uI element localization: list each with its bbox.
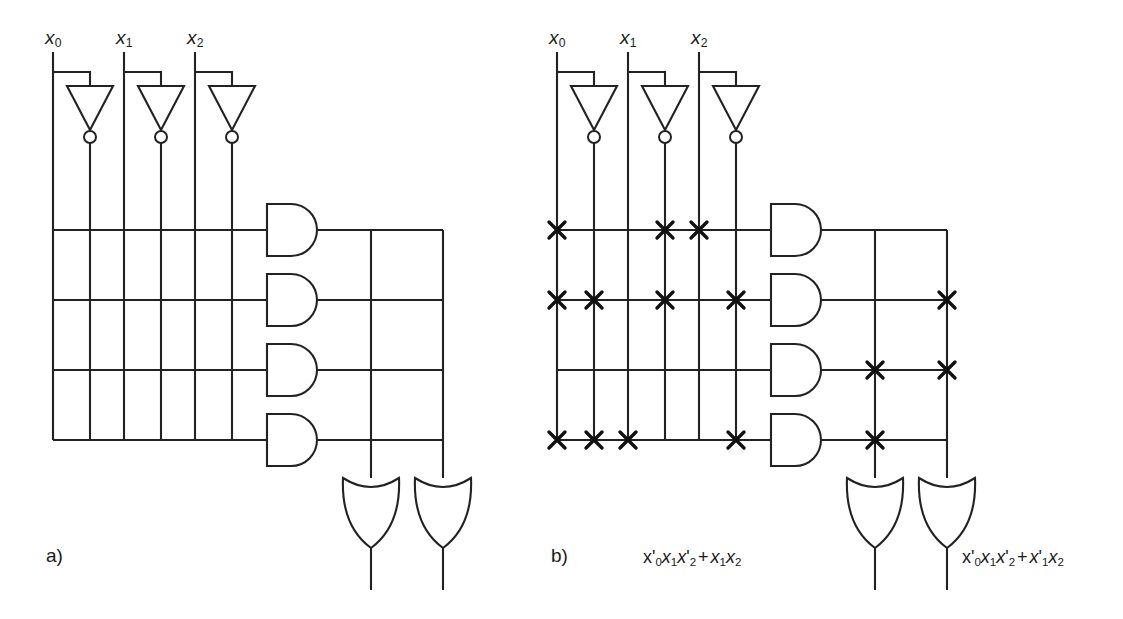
panel-a-or-gate-1: [343, 478, 399, 548]
figure-canvas: x0 x1 x2 x0 x1 x2 a) b) x'0x1x'2+x1x2 x'…: [0, 0, 1123, 619]
panel-b-output-expression-1: x'0x1x'2+x1x2: [643, 548, 741, 569]
panel-b-and-gate-4: [771, 414, 821, 466]
panel-b-and-gate-2: [771, 274, 821, 326]
panel-a-group: [53, 52, 471, 590]
panel-b-caption: b): [551, 546, 568, 565]
panel-a-caption: a): [46, 546, 63, 565]
panel-a-and-gate-3: [267, 344, 317, 396]
panel-b-group: [549, 52, 975, 590]
panel-a-input-label-x0: x0: [45, 28, 61, 50]
panel-b-input-x2: [699, 52, 759, 440]
panel-b-or-gate-2: [919, 478, 975, 548]
panel-b-output-expression-2: x'0x1x'2+x'1x2: [962, 548, 1064, 569]
panel-b-or-gate-1: [847, 478, 903, 548]
panel-b-and-gate-1: [771, 204, 821, 256]
panel-a-and-gate-1: [267, 204, 317, 256]
panel-b-and-gate-3: [771, 344, 821, 396]
panel-a-input-label-x2: x2: [187, 28, 203, 50]
panel-a-input-label-x1: x1: [116, 28, 132, 50]
panel-a-and-gate-2: [267, 274, 317, 326]
panel-b-input-x1: [628, 52, 688, 440]
panel-b-input-label-x0: x0: [549, 28, 565, 50]
panel-b-input-label-x1: x1: [620, 28, 636, 50]
panel-b-input-x0: [557, 52, 617, 440]
panel-a-input-x0: [53, 52, 113, 440]
panel-a-and-gate-4: [267, 414, 317, 466]
panel-a-input-x2: [195, 52, 255, 440]
panel-b-input-label-x2: x2: [691, 28, 707, 50]
panel-a-or-gate-2: [415, 478, 471, 548]
panel-a-input-x1: [124, 52, 184, 440]
pla-diagram-svg: [0, 0, 1123, 619]
